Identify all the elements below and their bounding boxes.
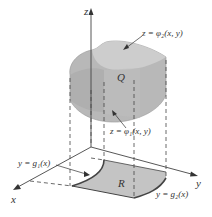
x-arrow-icon: [13, 184, 21, 190]
region-label: R: [118, 178, 125, 189]
solid-label: Q: [117, 72, 125, 83]
top-surface-label: z = φ₂(x, y): [142, 29, 183, 38]
y-arrow-icon: [190, 172, 198, 177]
leader-arrow-icon: [84, 171, 90, 177]
x-axis-label: x: [11, 194, 16, 205]
y-axis-label: y: [196, 178, 201, 189]
curve-g2-label: y = g₂(x): [156, 190, 188, 199]
z-arrow-icon: [89, 8, 94, 15]
bottom-surface-label: z = φ₁(x, y): [110, 127, 151, 136]
curve-g1-label: y = g₁(x): [18, 159, 50, 168]
z-axis-label: z: [84, 6, 88, 17]
